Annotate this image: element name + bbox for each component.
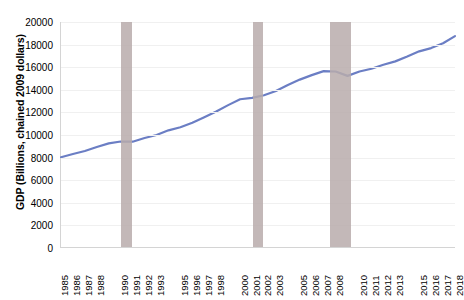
- x-tick-label: 1990: [119, 250, 130, 296]
- recession-band: [253, 22, 264, 247]
- x-tick-label: 2008: [334, 250, 345, 296]
- x-tick-label: 1996: [191, 250, 202, 296]
- y-tick-label: 14000: [25, 84, 53, 95]
- x-tick-label: 1985: [59, 250, 70, 296]
- x-tick-label: 2017: [442, 250, 453, 296]
- x-tick-label: 2001: [251, 250, 262, 296]
- x-tick-label: 2015: [418, 250, 429, 296]
- x-tick-label: 2006: [310, 250, 321, 296]
- x-tick-label: 2013: [394, 250, 405, 296]
- x-tick-label: 1988: [95, 250, 106, 296]
- y-tick-label: 20000: [25, 17, 53, 28]
- y-tick-label: 16000: [25, 62, 53, 73]
- recession-band: [330, 22, 350, 247]
- y-tick-label: 4000: [31, 197, 53, 208]
- x-tick-label: 2011: [370, 250, 381, 296]
- x-tick-label: 1986: [71, 250, 82, 296]
- y-tick-label: 18000: [25, 39, 53, 50]
- x-tick-label: 2012: [382, 250, 393, 296]
- x-tick-label: 1991: [131, 250, 142, 296]
- y-tick-label: 2000: [31, 220, 53, 231]
- x-tick-label: 1992: [143, 250, 154, 296]
- x-tick-label: 2005: [298, 250, 309, 296]
- y-tick-label: 8000: [31, 152, 53, 163]
- y-tick-label: 0: [47, 243, 53, 254]
- x-tick-label: 2003: [274, 250, 285, 296]
- x-tick-label: 1998: [215, 250, 226, 296]
- x-tick-label: 2016: [430, 250, 441, 296]
- plot-area: [60, 22, 455, 248]
- recession-band: [121, 22, 132, 247]
- y-axis-tick-labels: 2000018000160001400012000100008000600040…: [0, 22, 57, 248]
- x-tick-label: 2007: [322, 250, 333, 296]
- x-tick-label: 2000: [239, 250, 250, 296]
- x-tick-label: 1987: [83, 250, 94, 296]
- x-tick-label: 2018: [454, 250, 464, 296]
- y-tick-label: 6000: [31, 175, 53, 186]
- x-tick-label: 1993: [155, 250, 166, 296]
- x-axis-tick-labels: 1985198619871988199019911992199319951996…: [60, 250, 455, 300]
- x-tick-label: 2010: [358, 250, 369, 296]
- gdp-line-chart: GDP (Billions, chained 2009 dollars) 200…: [0, 0, 464, 300]
- y-tick-label: 10000: [25, 130, 53, 141]
- y-tick-label: 12000: [25, 107, 53, 118]
- x-tick-label: 1997: [203, 250, 214, 296]
- x-tick-label: 1995: [179, 250, 190, 296]
- x-tick-label: 2002: [262, 250, 273, 296]
